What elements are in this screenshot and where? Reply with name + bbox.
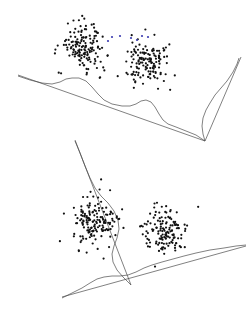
data-point — [81, 36, 83, 38]
data-point — [159, 220, 161, 222]
data-point — [93, 27, 95, 29]
data-point — [87, 227, 89, 229]
data-point — [142, 225, 144, 227]
data-point — [178, 227, 180, 229]
data-point — [87, 68, 89, 70]
data-point — [112, 219, 114, 221]
data-point — [137, 49, 139, 51]
data-point — [69, 31, 71, 33]
data-point — [146, 64, 148, 66]
data-point — [98, 210, 100, 212]
data-point — [153, 34, 155, 36]
data-point — [94, 30, 96, 32]
data-point — [98, 207, 100, 209]
data-point — [74, 214, 76, 216]
data-point — [161, 230, 163, 232]
data-point — [99, 48, 101, 50]
data-point — [148, 60, 150, 62]
data-point — [169, 236, 171, 238]
accent-data-point — [107, 40, 109, 42]
data-point — [102, 257, 104, 259]
data-point — [89, 214, 91, 216]
data-point — [77, 54, 79, 56]
data-point — [58, 72, 60, 74]
data-point — [127, 73, 129, 75]
data-point — [176, 224, 178, 226]
data-point — [94, 205, 96, 207]
data-point — [83, 56, 85, 58]
data-point — [80, 34, 82, 36]
data-point — [106, 228, 108, 230]
data-point — [152, 70, 154, 72]
data-point — [171, 229, 173, 231]
data-point — [184, 246, 186, 248]
data-point — [82, 196, 84, 198]
data-point — [90, 47, 92, 49]
data-point — [161, 237, 163, 239]
data-point — [160, 72, 162, 74]
data-point — [167, 245, 169, 247]
data-point — [83, 48, 85, 50]
data-point — [145, 235, 147, 237]
upper-right-density — [202, 58, 239, 141]
data-point — [150, 70, 152, 72]
data-point — [73, 32, 75, 34]
data-point — [170, 241, 172, 243]
data-point — [75, 46, 77, 48]
data-point — [158, 250, 160, 252]
data-point — [108, 228, 110, 230]
data-point — [132, 73, 134, 75]
data-point — [114, 234, 116, 236]
data-point — [133, 87, 135, 89]
data-point — [145, 68, 147, 70]
data-point — [93, 235, 95, 237]
data-point — [76, 217, 78, 219]
data-point — [166, 62, 168, 64]
data-point — [99, 220, 101, 222]
data-point — [83, 18, 85, 20]
data-point — [158, 242, 160, 244]
data-point — [89, 204, 91, 206]
data-point — [63, 44, 65, 46]
data-point — [66, 49, 68, 51]
data-point — [83, 64, 85, 66]
data-point — [78, 45, 80, 47]
data-point — [165, 222, 167, 224]
data-point — [158, 60, 160, 62]
data-point — [161, 239, 163, 241]
data-point — [165, 73, 167, 75]
data-point — [70, 46, 72, 48]
data-point — [155, 72, 157, 74]
data-point — [86, 229, 88, 231]
data-point — [142, 48, 144, 50]
data-point — [81, 222, 83, 224]
data-point — [173, 237, 175, 239]
data-point — [93, 63, 95, 65]
data-point — [92, 242, 94, 244]
data-point — [74, 36, 76, 38]
data-point — [80, 209, 82, 211]
data-point — [84, 42, 86, 44]
data-point — [169, 89, 171, 91]
lower-right-cluster — [139, 202, 199, 268]
data-point — [87, 217, 89, 219]
data-point — [88, 219, 90, 221]
data-point — [83, 226, 85, 228]
data-point — [91, 211, 93, 213]
data-point — [101, 207, 103, 209]
data-point — [153, 65, 155, 67]
data-point — [142, 74, 144, 76]
upper-right-axis — [205, 57, 241, 141]
data-point — [84, 52, 86, 54]
data-point — [166, 55, 168, 57]
data-point — [82, 45, 84, 47]
data-point — [91, 43, 93, 45]
data-point — [153, 68, 155, 70]
data-point — [96, 212, 98, 214]
data-point — [70, 36, 72, 38]
data-point — [152, 229, 154, 231]
data-point — [93, 35, 95, 37]
data-point — [85, 25, 87, 27]
data-point — [147, 220, 149, 222]
data-point — [163, 230, 165, 232]
